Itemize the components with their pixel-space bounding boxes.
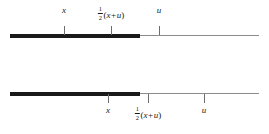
fraction-numerator: 1: [135, 106, 140, 113]
lower-tick-midpoint: [148, 94, 149, 103]
lower-label-x: x: [106, 106, 110, 115]
lower-label-midpoint: 1 2 (x+u): [135, 106, 161, 122]
fraction-denominator: 2: [135, 115, 140, 122]
lower-label-u-text: u: [202, 105, 207, 115]
lower-tick-x: [108, 94, 109, 103]
lower-label-x-text: x: [106, 105, 110, 115]
close-paren: ): [158, 110, 161, 120]
bisection-interval-diagram: x 1 2 (x+u) u x 1 2 (x+u): [0, 0, 269, 134]
lower-tick-u: [204, 94, 205, 103]
lower-fraction-one-half: 1 2: [135, 106, 140, 122]
lower-number-line: x 1 2 (x+u) u: [0, 0, 269, 134]
lower-label-u: u: [202, 106, 207, 115]
lower-axis-thick-interval: [10, 92, 140, 96]
